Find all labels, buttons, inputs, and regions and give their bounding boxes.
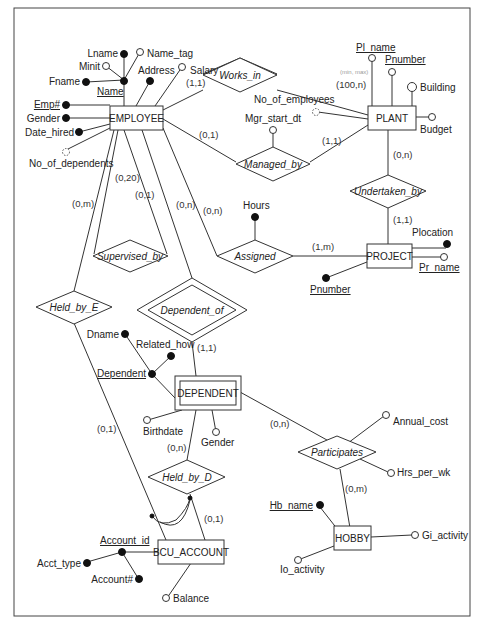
attr-dep-gender: Gender	[201, 437, 235, 448]
dep-gender-marker-open	[213, 429, 220, 436]
attr-no-of-employees: No_of_employees	[254, 94, 335, 105]
card-hobby-participates: (0,m)	[345, 483, 367, 494]
attr-pl-name-key: Pl_name	[356, 42, 396, 53]
attr-io-activity: Io_activity	[280, 564, 324, 575]
entity-label: HOBBY	[335, 533, 370, 544]
relationship-label: Held_by_E	[50, 302, 99, 313]
arc-endpoint	[188, 496, 192, 500]
entity-employee[interactable]: EMPLOYEE	[109, 106, 164, 130]
connector-lines	[66, 52, 446, 598]
attr-account-no: Account#	[91, 574, 133, 585]
no-of-dependents-marker-derived	[63, 149, 70, 156]
attr-lname: Lname	[87, 48, 118, 59]
attr-pnumber-project-key: Pnumber	[310, 284, 351, 295]
card-plant-managed-by: (1,1)	[322, 135, 342, 146]
account-id-marker-filled	[119, 549, 126, 556]
attr-emp-no-key: Emp#	[34, 99, 61, 110]
attr-no-of-dependents: No_of_dependents	[29, 158, 114, 169]
relationship-managed-by[interactable]: Managed_by	[236, 147, 310, 181]
attribute-markers	[63, 49, 451, 602]
card-emp-works-in: (1,1)	[186, 77, 206, 88]
related-how-marker-filled	[168, 353, 175, 360]
attr-name-tag: Name_tag	[147, 48, 193, 59]
card-plant-undertaken-by: (0,n)	[393, 149, 413, 160]
attr-gi-activity: Gi_activity	[422, 530, 468, 541]
attr-pnumber-key: Pnumber	[385, 54, 426, 65]
balance-marker-open	[163, 595, 170, 602]
attr-gender: Gender	[27, 113, 61, 124]
no-of-employees-marker-derived	[313, 109, 320, 116]
pnumber-project-marker-filled	[323, 275, 330, 282]
entity-label: DEPENDENT	[177, 388, 239, 399]
arc-endpoint	[150, 514, 154, 518]
relationship-label: Managed_by	[244, 159, 303, 170]
entity-label: PROJECT	[366, 251, 413, 262]
card-project-undertaken-by: (1,1)	[393, 214, 413, 225]
attr-fname: Fname	[49, 76, 81, 87]
account-no-marker-filled	[136, 576, 143, 583]
card-dependent-participates: (0,n)	[270, 418, 290, 429]
card-dependent-held-by-d: (0,n)	[167, 442, 187, 453]
gender-marker-filled	[63, 115, 70, 122]
lname-marker-filled	[121, 51, 128, 58]
relationship-label: Works_in	[219, 70, 261, 81]
name-tag-marker-open	[137, 49, 144, 56]
acct-type-marker-filled	[84, 560, 91, 567]
attr-annual-cost: Annual_cost	[393, 416, 448, 427]
relationship-label: Participates	[311, 447, 363, 458]
attr-plocation: Plocation	[412, 227, 453, 238]
attr-budget: Budget	[420, 124, 452, 135]
relationship-label: Dependent_of	[161, 305, 225, 316]
attr-related-how: Related_how	[136, 339, 195, 350]
attr-balance: Balance	[173, 593, 210, 604]
building-marker-ring	[408, 83, 417, 92]
emp-no-marker-filled	[63, 102, 70, 109]
attr-pr-name-key: Pr_name	[419, 262, 460, 273]
attr-name-key: Name	[97, 86, 124, 97]
relationship-label: Held_by_D	[162, 472, 211, 483]
entity-bcu-account[interactable]: BCU_ACCOUNT	[153, 540, 229, 564]
attr-mgr-start-dt: Mgr_start_dt	[245, 113, 301, 124]
entity-plant[interactable]: PLANT	[368, 106, 416, 130]
attr-address: Address	[138, 65, 175, 76]
pnumber-marker-open	[389, 69, 396, 76]
entity-label: PLANT	[376, 113, 408, 124]
relationship-assigned[interactable]: Assigned	[217, 240, 293, 273]
birthdate-marker-open	[144, 417, 151, 424]
address-marker-filled	[147, 78, 154, 85]
io-activity-marker-open	[295, 557, 302, 564]
dname-marker-filled	[122, 331, 129, 338]
entity-project[interactable]: PROJECT	[366, 244, 413, 268]
relationship-label: Supervised_by	[97, 251, 164, 262]
card-plant-works-in: (100,n)	[336, 79, 366, 90]
mgr-start-dt-marker-open	[270, 127, 277, 134]
entity-dependent-weak[interactable]: DEPENDENT	[175, 376, 241, 410]
gi-activity-marker-open	[412, 532, 419, 539]
annual-cost-marker-open	[383, 412, 390, 419]
relationship-held-by-d[interactable]: Held_by_D	[148, 460, 225, 494]
card-dependent-dependent-of: (1,1)	[197, 342, 217, 353]
attr-dname: Dname	[87, 329, 120, 340]
hb-name-marker-filled	[317, 502, 324, 509]
entity-label: EMPLOYEE	[109, 113, 164, 124]
relationship-supervised-by[interactable]: Supervised_by	[93, 240, 168, 272]
dependent-composite-marker	[149, 371, 156, 378]
card-emp-supervised-a: (0,20)	[115, 172, 140, 183]
card-account-held-by-d: (0,1)	[204, 513, 224, 524]
card-emp-held-by-e: (0,m)	[72, 198, 94, 209]
er-diagram: EMPLOYEE PLANT PROJECT DEPENDENT HOBBY B…	[0, 0, 480, 632]
relationship-label: Undertaken_by	[354, 186, 423, 197]
relationship-held-by-e[interactable]: Held_by_E	[36, 291, 112, 324]
relationship-participates[interactable]: Participates	[298, 436, 376, 469]
card-account-held-by-e: (0,1)	[97, 423, 117, 434]
card-emp-dependent-of: (0,n)	[176, 199, 196, 210]
fname-marker-filled	[83, 79, 90, 86]
name-composite-marker	[121, 78, 128, 85]
attr-minit: Minit	[79, 61, 100, 72]
relationship-dependent-of-identifying[interactable]: Dependent_of	[137, 278, 247, 342]
relationship-label: Assigned	[233, 251, 276, 262]
attr-date-hired: Date_hired	[25, 127, 74, 138]
entity-hobby[interactable]: HOBBY	[334, 526, 371, 550]
hours-marker-filled	[252, 214, 259, 221]
relationship-undertaken-by[interactable]: Undertaken_by	[350, 175, 426, 208]
